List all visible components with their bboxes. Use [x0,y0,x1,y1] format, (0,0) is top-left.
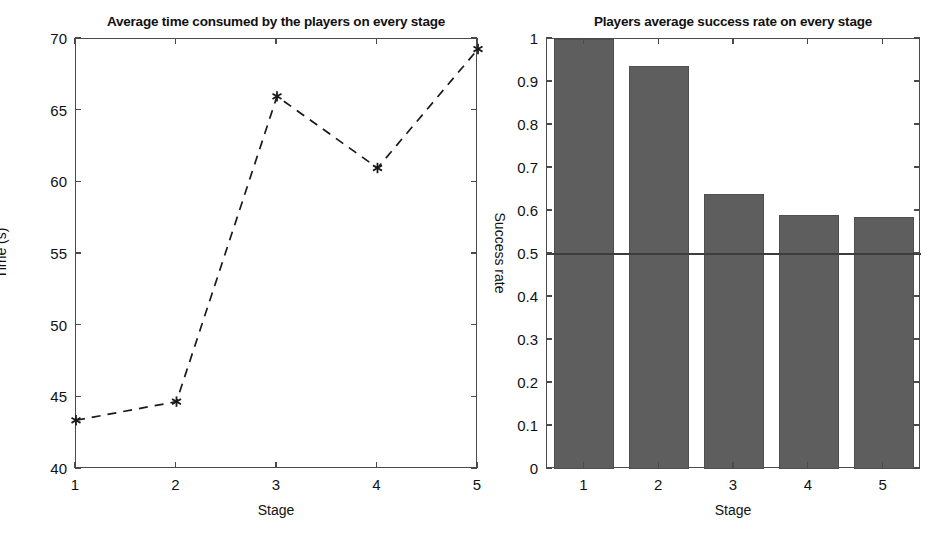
x-tick-mark [476,462,477,468]
y-tick-mark-mirror [914,80,920,81]
y-tick-label: 0.8 [494,116,538,133]
y-tick-mark [546,424,552,425]
x-tick-mark-mirror [658,38,659,44]
bar-chart-plot-area [546,38,920,468]
y-tick-label: 0.1 [494,417,538,434]
x-tick-label: 5 [473,476,481,493]
y-tick-label: 65 [23,101,67,118]
x-tick-mark-mirror [732,38,733,44]
x-tick-label: 4 [804,476,812,493]
y-tick-label: 70 [23,30,67,47]
y-tick-mark-mirror [471,396,477,397]
y-tick-mark [546,381,552,382]
y-tick-mark-mirror [914,424,920,425]
y-tick-mark-mirror [914,252,920,253]
y-tick-mark-mirror [471,109,477,110]
y-tick-mark [75,37,81,38]
bar-chart-panel: Players average success rate on every st… [500,0,948,546]
bar-stage-5 [854,217,914,469]
y-tick-label: 50 [23,316,67,333]
y-tick-mark [546,123,552,124]
y-tick-mark [75,252,81,253]
line-chart-panel: Average time consumed by the players on … [0,0,500,546]
line-chart-x-axis-label: Stage [75,502,477,518]
bar-chart-x-axis-label: Stage [546,502,920,518]
y-tick-mark-mirror [914,209,920,210]
x-tick-mark [658,462,659,468]
y-tick-label: 60 [23,173,67,190]
x-tick-label: 2 [171,476,179,493]
line-chart-y-axis-label: Time (s) [0,228,9,279]
x-tick-label: 3 [272,476,280,493]
y-tick-mark [546,37,552,38]
x-tick-mark [175,462,176,468]
data-point-marker [474,44,483,54]
line-series-svg [76,39,478,469]
x-tick-mark-mirror [476,38,477,44]
x-tick-mark [882,462,883,468]
bar-stage-2 [629,66,689,469]
x-tick-mark [376,462,377,468]
y-tick-label: 0.2 [494,374,538,391]
line-chart-plot-area [75,38,477,468]
x-tick-mark-mirror [175,38,176,44]
bar-chart-title: Players average success rate on every st… [546,14,920,29]
y-tick-mark [546,338,552,339]
y-tick-label: 45 [23,388,67,405]
reference-line-0-5 [547,253,921,255]
x-tick-mark-mirror [376,38,377,44]
line-chart-title: Average time consumed by the players on … [75,14,477,29]
y-tick-mark-mirror [471,181,477,182]
x-tick-label: 2 [654,476,662,493]
x-tick-label: 5 [878,476,886,493]
x-tick-mark [74,462,75,468]
x-tick-mark [275,462,276,468]
y-tick-mark [75,467,81,468]
y-tick-mark [546,467,552,468]
x-tick-mark [807,462,808,468]
y-tick-mark [75,109,81,110]
y-tick-mark [546,252,552,253]
x-tick-label: 1 [71,476,79,493]
y-tick-mark [546,295,552,296]
figure-canvas: Average time consumed by the players on … [0,0,948,546]
y-tick-label: 0 [494,460,538,477]
x-tick-mark [732,462,733,468]
y-tick-mark-mirror [471,324,477,325]
y-tick-mark-mirror [914,166,920,167]
line-series-path [76,49,478,420]
x-tick-label: 4 [372,476,380,493]
bar-stage-3 [704,194,764,469]
y-tick-label: 55 [23,245,67,262]
y-tick-mark-mirror [471,252,477,253]
y-tick-mark-mirror [914,381,920,382]
y-tick-mark-mirror [914,123,920,124]
x-tick-mark-mirror [807,38,808,44]
y-tick-mark-mirror [914,295,920,296]
y-tick-mark [546,166,552,167]
x-tick-mark-mirror [275,38,276,44]
y-tick-mark-mirror [914,467,920,468]
bar-chart-y-axis-label: Success rate [492,213,508,294]
x-tick-mark [583,462,584,468]
y-tick-mark [75,181,81,182]
data-point-marker [273,91,282,101]
y-tick-mark [75,396,81,397]
x-tick-mark-mirror [74,38,75,44]
x-tick-mark-mirror [882,38,883,44]
y-tick-label: 0.3 [494,331,538,348]
y-tick-mark-mirror [914,37,920,38]
y-tick-label: 40 [23,460,67,477]
y-tick-mark [546,80,552,81]
y-tick-label: 0.9 [494,73,538,90]
x-tick-label: 1 [579,476,587,493]
y-tick-mark [546,209,552,210]
y-tick-mark-mirror [914,338,920,339]
y-tick-label: 1 [494,30,538,47]
y-tick-label: 0.7 [494,159,538,176]
x-tick-mark-mirror [583,38,584,44]
x-tick-label: 3 [729,476,737,493]
y-tick-mark [75,324,81,325]
